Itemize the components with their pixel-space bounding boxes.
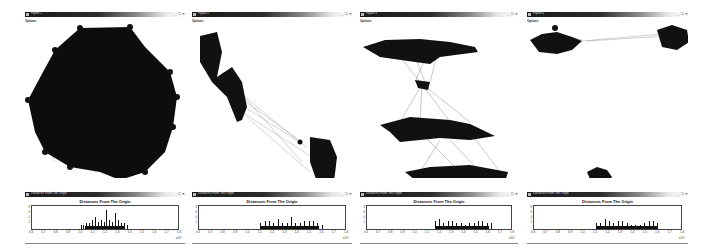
graph-window-1: Figure 1 _ □ × Options xyxy=(25,12,185,178)
window-controls[interactable]: _ □ × xyxy=(677,191,688,196)
window-controls[interactable]: _ □ × xyxy=(507,11,518,16)
x-axis: 0.6 0.7 0.8 0.9 1.0 1.1 1.2 1.3 1.4 1.5 … xyxy=(198,230,346,234)
window-title: Distances From The Origin xyxy=(198,191,234,195)
window-icon xyxy=(361,13,364,16)
window-title: Figure 2 xyxy=(198,11,209,15)
window-title: Distances From The Origin xyxy=(533,191,569,195)
plot-axes xyxy=(31,205,179,230)
window-titlebar[interactable]: Distances From The Origin xyxy=(527,192,688,197)
window-title: Figure 1 xyxy=(31,11,42,15)
graph-window-2: Figure 2 _ □ × Options xyxy=(192,12,352,178)
window-controls[interactable]: _ □ × xyxy=(341,11,352,16)
window-icon xyxy=(528,193,531,196)
window-controls[interactable]: _ □ × xyxy=(341,191,352,196)
x-axis-multiplier: x10⁴ xyxy=(509,236,515,240)
window-titlebar[interactable]: Distances From The Origin xyxy=(360,192,518,197)
window-title: Distances From The Origin xyxy=(31,191,67,195)
histogram-window-4: Distances From The Origin _ □ × Distance… xyxy=(527,192,688,244)
window-icon xyxy=(26,193,29,196)
graph-window-3: Figure 3 _ □ × Options xyxy=(360,12,518,178)
x-axis-multiplier: x10⁴ xyxy=(679,236,685,240)
window-controls[interactable]: _ □ × xyxy=(174,191,185,196)
window-title: Figure 3 xyxy=(366,11,377,15)
window-icon xyxy=(193,193,196,196)
x-axis-multiplier: x10⁴ xyxy=(343,236,349,240)
window-icon xyxy=(528,13,531,16)
window-bottom-border xyxy=(25,243,185,244)
window-icon xyxy=(361,193,364,196)
window-controls[interactable]: _ □ × xyxy=(677,11,688,16)
window-titlebar[interactable]: Figure 3 xyxy=(360,12,518,17)
histogram-window-1: Distances From The Origin _ □ × Distance… xyxy=(25,192,185,244)
histogram-bars xyxy=(32,206,178,229)
plot-axes xyxy=(533,205,682,230)
histogram-bars xyxy=(199,206,345,229)
x-axis: 0.6 0.7 0.8 0.9 1.0 1.1 1.2 1.3 1.4 1.5 … xyxy=(366,230,512,234)
histogram-window-2: Distances From The Origin _ □ × Distance… xyxy=(192,192,352,244)
chart-title: Distances From The Origin xyxy=(360,199,518,204)
histogram-bars xyxy=(367,206,511,229)
x-axis-multiplier: x10⁴ xyxy=(176,236,182,240)
window-controls[interactable]: _ □ × xyxy=(174,11,185,16)
chart-title: Distances From The Origin xyxy=(25,199,185,204)
network-graph xyxy=(360,22,518,178)
x-axis: 0.6 0.7 0.8 0.9 1.0 1.1 1.2 1.3 1.4 1.5 … xyxy=(31,230,179,234)
plot-axes xyxy=(366,205,512,230)
window-titlebar[interactable]: Distances From The Origin xyxy=(25,192,185,197)
x-axis: 0.6 0.7 0.8 0.9 1.0 1.1 1.2 1.3 1.4 1.5 … xyxy=(533,230,682,234)
plot-axes xyxy=(198,205,346,230)
window-bottom-border xyxy=(527,243,688,244)
window-titlebar[interactable]: Distances From The Origin xyxy=(192,192,352,197)
network-graph-canvas xyxy=(25,22,185,178)
window-title: Distances From The Origin xyxy=(366,191,402,195)
window-icon xyxy=(26,13,29,16)
network-graph-canvas xyxy=(192,22,352,178)
chart-title: Distances From The Origin xyxy=(527,199,688,204)
window-titlebar[interactable]: Figure 1 xyxy=(25,12,185,17)
window-title: Figure 4 xyxy=(533,11,544,15)
window-bottom-border xyxy=(360,243,518,244)
network-graph xyxy=(527,22,688,178)
network-graph xyxy=(192,22,352,178)
histogram-bars xyxy=(534,206,681,229)
window-controls[interactable]: _ □ × xyxy=(507,191,518,196)
histogram-window-3: Distances From The Origin _ □ × Distance… xyxy=(360,192,518,244)
window-icon xyxy=(193,13,196,16)
network-graph-canvas xyxy=(360,22,518,178)
chart-title: Distances From The Origin xyxy=(192,199,352,204)
window-bottom-border xyxy=(192,243,352,244)
window-titlebar[interactable]: Figure 2 xyxy=(192,12,352,17)
network-graph xyxy=(25,22,185,178)
graph-window-4: Figure 4 _ □ × Options xyxy=(527,12,688,178)
window-titlebar[interactable]: Figure 4 xyxy=(527,12,688,17)
network-graph-canvas xyxy=(527,22,688,178)
